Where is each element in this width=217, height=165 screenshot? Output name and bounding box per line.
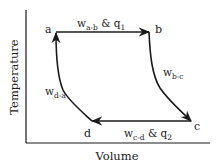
process-d-a-label: wd-a <box>45 85 66 100</box>
process-d-a-arrow <box>56 33 92 121</box>
cycle-diagram: Volume Temperature a b c d wa-b & q1 wb-… <box>0 0 217 165</box>
point-a-label: a <box>45 23 52 36</box>
process-b-c-label: wb-c <box>163 66 184 81</box>
y-axis-title: Temperature <box>7 39 21 115</box>
point-b-label: b <box>155 23 162 36</box>
point-c-label: c <box>194 120 200 133</box>
point-d-label: d <box>84 127 91 140</box>
process-c-d-label: wc-d & q2 <box>124 127 172 142</box>
process-a-b-label: wa-b & q1 <box>77 17 125 32</box>
x-axis-title: Volume <box>95 149 139 163</box>
